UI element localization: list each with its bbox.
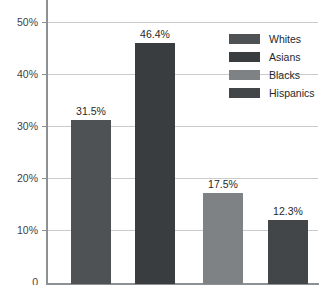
legend-label-blacks: Blacks [269,69,300,81]
y-axis-label-20: 20% [0,173,38,184]
legend-label-whites: Whites [269,33,301,45]
bar-value-label-blacks: 17.5% [193,178,253,190]
bar-value-label-hispanics: 12.3% [258,205,318,217]
bar-value-label-asians: 46.4% [125,28,185,40]
bar-asians[interactable] [135,43,175,284]
legend: Whites Asians Blacks Hispanics [229,33,315,99]
y-axis-label-10: 10% [0,225,38,236]
legend-swatch-whites [229,34,260,44]
legend-item-whites[interactable]: Whites [229,33,315,45]
legend-swatch-hispanics [229,88,260,98]
legend-swatch-asians [229,52,260,62]
legend-label-hispanics: Hispanics [269,87,315,99]
legend-item-asians[interactable]: Asians [229,51,315,63]
chart-bottom-margin [0,285,336,305]
y-axis-label-40: 40% [0,69,38,80]
legend-swatch-blacks [229,70,260,80]
y-axis-label-30: 30% [0,121,38,132]
legend-item-blacks[interactable]: Blacks [229,69,315,81]
y-axis-label-50: 50% [0,17,38,28]
legend-label-asians: Asians [269,51,301,63]
bar-whites[interactable] [71,120,111,284]
bar-blacks[interactable] [203,193,243,284]
bar-hispanics[interactable] [268,220,308,284]
bar-value-label-whites: 31.5% [61,105,121,117]
legend-item-hispanics[interactable]: Hispanics [229,87,315,99]
bar-chart: 50% 40% 30% 20% 10% 0 31.5% 46.4% 17.5% … [0,0,336,305]
